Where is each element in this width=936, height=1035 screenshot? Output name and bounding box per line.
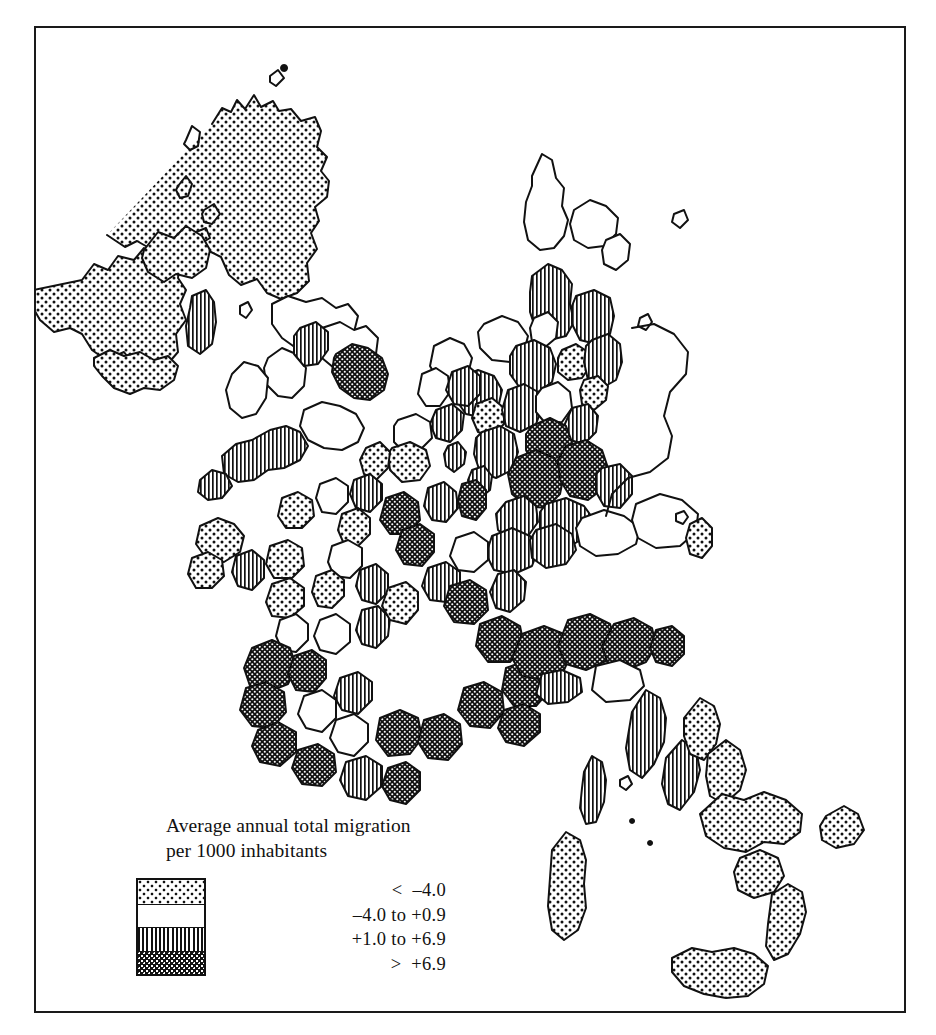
legend-swatch-plain-white <box>138 904 204 928</box>
area-calabria <box>766 884 806 960</box>
area-lot-garonne <box>298 690 336 732</box>
area-netherlands-randstad <box>418 368 450 406</box>
area-cote-azur <box>498 704 540 746</box>
area-austria-west <box>576 510 640 556</box>
area-belgium-wallonia <box>388 442 430 482</box>
area-east-anglia <box>332 344 388 400</box>
area-sardinia <box>548 832 586 940</box>
area-campania-puglia <box>700 792 802 852</box>
area-alsace <box>458 480 486 520</box>
legend-body: < –4.0 –4.0 to +0.9 +1.0 to +6.9 > +6.9 <box>136 878 466 976</box>
area-switzerland-west <box>486 528 538 574</box>
area-languedoc-w <box>376 710 422 756</box>
area-netherlands-south <box>430 404 464 442</box>
area-friuli <box>650 626 684 666</box>
area-jutland <box>524 154 568 250</box>
area-zealand <box>602 234 630 270</box>
area-nord-pas-de-calais <box>360 442 390 480</box>
figure-frame: Average annual total migration per 1000 … <box>34 26 906 1013</box>
area-franche-comte <box>450 532 488 572</box>
area-midi-pyrenees-n <box>334 672 372 714</box>
legend-title: Average annual total migration per 1000 … <box>166 813 466 863</box>
area-helgoland <box>638 314 652 330</box>
area-cornwall <box>198 470 232 500</box>
area-burgenland <box>686 518 712 558</box>
area-tuscany <box>626 690 666 778</box>
area-rhone-alpes-n <box>444 580 488 624</box>
legend-label-class-2: –4.0 to +0.9 <box>214 903 446 928</box>
area-liguria <box>536 670 582 704</box>
area-aquitaine-c <box>240 682 286 728</box>
area-bavaria-east <box>596 464 632 508</box>
area-aquitaine-s <box>252 722 296 766</box>
area-savoie <box>490 570 526 612</box>
area-luxembourg <box>444 442 466 472</box>
map-legend: Average annual total migration per 1000 … <box>136 813 466 976</box>
area-poitou <box>266 578 304 618</box>
legend-label-class-1: < –4.0 <box>214 878 446 903</box>
area-south-east-england <box>300 402 364 450</box>
area-elba <box>620 776 632 790</box>
legend-swatch-sparse-dots <box>138 880 204 904</box>
legend-label-class-4: > +6.9 <box>214 952 446 977</box>
legend-swatch-vertical-lines <box>138 927 204 951</box>
area-berry <box>356 564 388 604</box>
area-normandy-upper <box>316 478 348 514</box>
area-roussillon <box>382 762 420 804</box>
area-burgundy-n <box>396 524 434 566</box>
area-orkney <box>270 70 284 86</box>
area-midi-pyrenees-c <box>330 714 368 756</box>
legend-label-column: < –4.0 –4.0 to +0.9 +1.0 to +6.9 > +6.9 <box>214 878 446 976</box>
legend-label-class-3: +1.0 to +6.9 <box>214 927 446 952</box>
area-bornholm <box>672 210 688 228</box>
legend-swatch-column <box>136 878 206 976</box>
area-corsica <box>580 756 606 824</box>
area-brittany-sw <box>188 552 224 588</box>
area-centre-s <box>312 570 344 608</box>
area-puglia-heel <box>820 806 864 848</box>
area-midi-pyrenees-s <box>292 744 336 786</box>
area-ireland-east-stripes <box>186 290 216 354</box>
area-dordogne <box>288 650 326 692</box>
area-shetland-dot <box>280 64 288 72</box>
area-wales <box>226 362 268 418</box>
area-pyrenees-central <box>340 756 382 800</box>
area-brittany-e <box>232 550 264 590</box>
area-pays-de-loire <box>266 540 304 578</box>
area-provence-w <box>458 682 504 728</box>
area-picardy <box>350 474 382 512</box>
area-paris-ile-de-france <box>338 508 370 546</box>
area-south-west-england <box>222 426 308 482</box>
area-ireland-south <box>94 350 178 394</box>
area-sicily <box>672 948 768 998</box>
area-small-isle-2 <box>647 840 653 846</box>
figure-root: Average annual total migration per 1000 … <box>0 0 936 1035</box>
area-small-isle-1 <box>629 818 635 824</box>
legend-swatch-dense-dark-dots <box>138 951 204 975</box>
area-limousin <box>314 614 350 654</box>
area-lower-saxony-c <box>510 340 556 392</box>
area-lorraine <box>424 482 458 522</box>
area-isle-of-man <box>240 302 252 318</box>
area-languedoc-e <box>418 714 462 760</box>
area-normandy-lower <box>278 492 314 528</box>
area-netherlands-east <box>446 366 480 406</box>
